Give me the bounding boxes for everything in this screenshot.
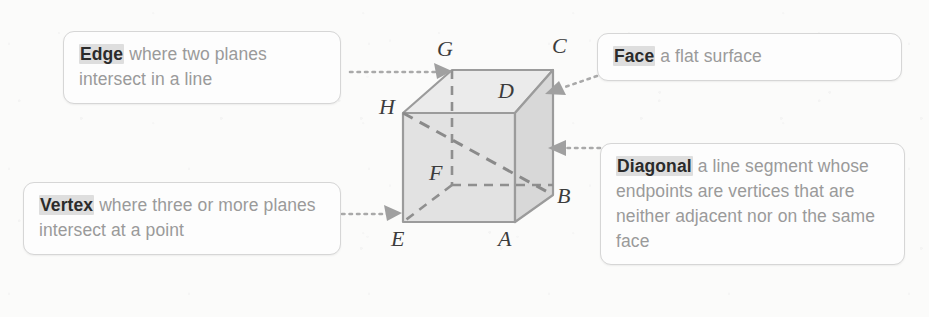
cube-space-diagonal xyxy=(403,113,553,195)
callout-face-keyword: Face xyxy=(613,46,655,66)
connector-face xyxy=(545,76,597,95)
cube-front-face xyxy=(403,113,515,222)
connector-diagonal xyxy=(548,140,600,156)
cube-hidden-edges xyxy=(403,70,553,222)
callout-face: Face a flat surface xyxy=(597,33,902,81)
callout-diagonal: Diagonal a line segment whose endpoints … xyxy=(600,143,905,265)
callout-vertex-keyword: Vertex xyxy=(39,195,94,215)
cube-right-face xyxy=(515,70,553,222)
vertex-label-B: B xyxy=(557,183,570,209)
callout-diagonal-keyword: Diagonal xyxy=(616,156,693,176)
vertex-label-H: H xyxy=(379,94,395,120)
connector-vertex xyxy=(342,205,402,221)
callout-vertex: Vertex where three or more planes inters… xyxy=(23,182,341,255)
callout-face-definition: a flat surface xyxy=(660,46,762,66)
vertex-label-C: C xyxy=(552,33,567,59)
connector-edge xyxy=(350,63,452,79)
vertex-label-D: D xyxy=(498,78,514,104)
callout-edge: Edge where two planes intersect in a lin… xyxy=(63,31,341,104)
cube-diagram-page: G C H D F B E A Edge where two planes in… xyxy=(0,0,929,317)
vertex-label-A: A xyxy=(498,226,511,252)
callout-edge-keyword: Edge xyxy=(79,44,124,64)
vertex-label-E: E xyxy=(391,226,404,252)
vertex-label-F: F xyxy=(429,160,442,186)
cube-top-face xyxy=(403,70,553,113)
vertex-label-G: G xyxy=(437,36,453,62)
